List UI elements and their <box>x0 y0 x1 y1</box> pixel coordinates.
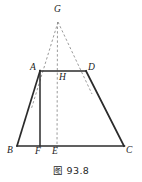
vertex-label-G: G <box>54 5 61 15</box>
vertex-label-D: D <box>88 63 95 73</box>
vertex-label-A: A <box>30 63 36 73</box>
segment-DC <box>86 71 124 146</box>
vertex-label-H: H <box>59 73 66 83</box>
segment-AB <box>17 71 40 146</box>
solid-figure-lines <box>17 71 125 147</box>
vertex-label-B: B <box>7 146 13 156</box>
segment-GC-dashed <box>58 22 92 94</box>
vertex-label-C: C <box>126 146 132 156</box>
segment-GE-dashed <box>57 22 58 148</box>
geometry-figure: G A D H B F E C 图 93.8 <box>0 0 142 182</box>
vertex-label-E: E <box>52 147 58 157</box>
vertex-label-F: F <box>35 147 41 157</box>
geometry-diagram-canvas <box>0 0 142 182</box>
figure-caption: 图 93.8 <box>0 163 142 177</box>
